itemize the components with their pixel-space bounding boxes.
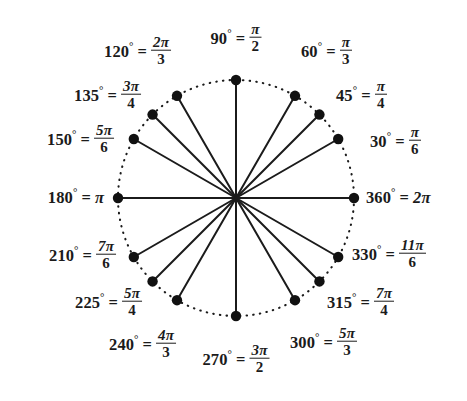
degree-sign-icon: °: [228, 348, 233, 360]
equals-sign: =: [324, 335, 334, 352]
degree-number: 135: [74, 86, 99, 105]
degree-value-135: 135°: [74, 88, 104, 105]
degree-sign-icon: °: [318, 40, 323, 52]
radian-fraction-210: 7π6: [96, 239, 116, 272]
radian-fraction-270: 3π2: [250, 343, 270, 376]
fraction-denominator: 4: [377, 95, 385, 111]
angle-label-90: 90°=π2: [210, 23, 261, 56]
degree-number: 315: [327, 293, 352, 312]
angle-label-150: 150°=5π6: [47, 124, 114, 157]
equals-sign: =: [236, 352, 246, 369]
fraction-numerator: π: [409, 125, 421, 141]
equals-sign: =: [143, 337, 153, 354]
angle-label-300: 300°=5π3: [290, 327, 357, 360]
degree-value-180: 180°: [48, 190, 78, 207]
degree-value-315: 315°: [327, 295, 357, 312]
equals-sign: =: [326, 44, 336, 61]
fraction-denominator: 6: [100, 139, 108, 155]
angle-point-30: [333, 134, 343, 144]
equals-sign: =: [108, 88, 118, 105]
degree-value-330: 330°: [352, 247, 382, 264]
degree-value-225: 225°: [75, 295, 105, 312]
angle-point-180: [113, 193, 123, 203]
fraction-denominator: 6: [409, 254, 417, 270]
radian-fraction-45: π4: [375, 79, 387, 112]
angle-point-315: [314, 276, 324, 286]
degree-sign-icon: °: [227, 27, 232, 39]
radian-fraction-300: 5π3: [337, 326, 357, 359]
angle-point-150: [129, 134, 139, 144]
angle-label-45: 45°=π4: [336, 80, 387, 113]
angle-point-90: [231, 75, 241, 85]
equals-sign: =: [236, 31, 246, 48]
equals-sign: =: [361, 295, 371, 312]
fraction-numerator: 5π: [337, 326, 357, 342]
radian-fraction-120: 2π3: [151, 35, 171, 68]
degree-number: 360: [366, 188, 391, 207]
angle-label-135: 135°=3π4: [74, 80, 141, 113]
fraction-denominator: 3: [343, 342, 351, 358]
angle-label-180: 180°=π: [48, 190, 104, 207]
degree-sign-icon: °: [99, 84, 104, 96]
degree-number: 240: [109, 335, 134, 354]
angle-label-270: 270°=3π2: [203, 344, 270, 377]
fraction-numerator: 11π: [399, 238, 426, 254]
degree-sign-icon: °: [134, 333, 139, 345]
radian-value-180: π: [95, 190, 104, 207]
fraction-denominator: 4: [380, 302, 388, 318]
angle-label-60: 60°=π3: [301, 36, 352, 69]
degree-sign-icon: °: [129, 40, 134, 52]
degree-sign-icon: °: [73, 186, 78, 198]
radian-fraction-90: π2: [249, 22, 261, 55]
degree-value-210: 210°: [49, 248, 79, 265]
equals-sign: =: [386, 247, 396, 264]
equals-sign: =: [81, 190, 91, 207]
degree-value-30: 30°: [370, 134, 391, 151]
degree-number: 210: [49, 246, 74, 265]
radian-fraction-150: 5π6: [94, 123, 114, 156]
radian-fraction-60: π3: [340, 35, 352, 68]
angle-point-330: [333, 252, 343, 262]
fraction-denominator: 3: [157, 51, 165, 67]
angle-point-135: [147, 109, 157, 119]
degree-value-270: 270°: [203, 352, 233, 369]
fraction-numerator: π: [249, 22, 261, 38]
degree-value-360: 360°: [366, 190, 396, 207]
degree-number: 225: [75, 293, 100, 312]
angle-label-210: 210°=7π6: [49, 240, 116, 273]
fraction-numerator: 5π: [122, 286, 142, 302]
degree-sign-icon: °: [100, 291, 105, 303]
radian-fraction-135: 3π4: [121, 79, 141, 112]
fraction-numerator: π: [375, 79, 387, 95]
angle-label-360: 360°=2π: [366, 190, 431, 207]
equals-sign: =: [400, 190, 410, 207]
equals-sign: =: [81, 132, 91, 149]
angle-point-120: [172, 91, 182, 101]
angle-point-210: [129, 252, 139, 262]
angle-point-60: [290, 91, 300, 101]
equals-sign: =: [361, 88, 371, 105]
fraction-numerator: 5π: [94, 123, 114, 139]
radian-fraction-240: 4π3: [156, 328, 176, 361]
angle-label-225: 225°=5π4: [75, 287, 142, 320]
fraction-denominator: 6: [102, 255, 110, 271]
fraction-denominator: 4: [127, 95, 135, 111]
degree-sign-icon: °: [391, 186, 396, 198]
degree-number: 180: [48, 188, 73, 207]
fraction-denominator: 2: [256, 359, 264, 375]
fraction-numerator: 4π: [156, 328, 176, 344]
degree-sign-icon: °: [72, 128, 77, 140]
fraction-denominator: 6: [411, 141, 419, 157]
degree-sign-icon: °: [377, 243, 382, 255]
degree-number: 45: [336, 86, 353, 105]
fraction-numerator: 7π: [96, 239, 116, 255]
radian-fraction-330: 11π6: [399, 238, 426, 271]
degree-sign-icon: °: [74, 244, 79, 256]
degree-value-45: 45°: [336, 88, 357, 105]
fraction-numerator: 3π: [250, 343, 270, 359]
angle-label-30: 30°=π6: [370, 126, 421, 159]
angle-point-45: [314, 109, 324, 119]
degree-sign-icon: °: [315, 331, 320, 343]
degree-number: 150: [47, 130, 72, 149]
degree-value-90: 90°: [210, 31, 231, 48]
